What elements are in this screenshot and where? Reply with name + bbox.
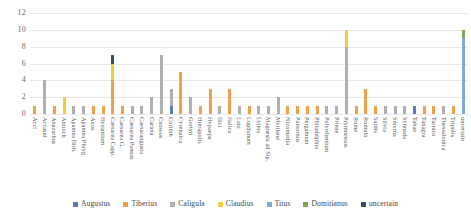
bar-segment-caligula[interactable] — [335, 106, 338, 114]
bar-segment-caligula[interactable] — [384, 106, 387, 114]
stacked-bar[interactable] — [325, 106, 328, 114]
bar-column[interactable] — [332, 13, 342, 114]
bar-segment-caligula[interactable] — [345, 47, 348, 114]
bar-segment-tiberius[interactable] — [432, 106, 435, 114]
bar-column[interactable] — [69, 13, 79, 114]
bar-segment-caligula[interactable] — [442, 106, 445, 114]
bar-segment-tiberius[interactable] — [364, 89, 367, 114]
stacked-bar[interactable] — [248, 106, 251, 114]
bar-segment-caligula[interactable] — [267, 106, 270, 114]
stacked-bar[interactable] — [140, 106, 143, 114]
stacked-bar[interactable] — [238, 106, 241, 114]
bar-column[interactable] — [40, 13, 50, 114]
stacked-bar[interactable] — [131, 106, 134, 114]
stacked-bar[interactable] — [413, 106, 416, 114]
stacked-bar[interactable] — [286, 106, 289, 114]
bar-column[interactable] — [225, 13, 235, 114]
bar-segment-tiberius[interactable] — [423, 106, 426, 114]
bar-column[interactable] — [108, 13, 118, 114]
bar-segment-tiberius[interactable] — [248, 106, 251, 114]
bar-segment-titus[interactable] — [462, 38, 465, 114]
stacked-bar[interactable] — [209, 89, 212, 114]
stacked-bar[interactable] — [452, 106, 455, 114]
bar-segment-tiberius[interactable] — [179, 72, 182, 114]
stacked-bar[interactable] — [82, 106, 85, 114]
stacked-bar[interactable] — [316, 106, 319, 114]
bar-column[interactable] — [351, 13, 361, 114]
legend-item-augustus[interactable]: Augustus — [73, 200, 111, 208]
bar-segment-tiberius[interactable] — [121, 106, 124, 114]
stacked-bar[interactable] — [355, 106, 358, 114]
stacked-bar[interactable] — [384, 106, 387, 114]
bar-segment-caligula[interactable] — [150, 97, 153, 114]
stacked-bar[interactable] — [277, 97, 280, 114]
bar-column[interactable] — [234, 13, 244, 114]
bar-segment-tiberius[interactable] — [452, 106, 455, 114]
stacked-bar[interactable] — [199, 106, 202, 114]
stacked-bar[interactable] — [442, 106, 445, 114]
stacked-bar[interactable] — [121, 106, 124, 114]
bar-column[interactable] — [205, 13, 215, 114]
bar-segment-tiberius[interactable] — [53, 106, 56, 114]
stacked-bar[interactable] — [92, 106, 95, 114]
bar-column[interactable] — [88, 13, 98, 114]
bar-column[interactable] — [59, 13, 69, 114]
stacked-bar[interactable] — [228, 89, 231, 114]
bar-column[interactable] — [342, 13, 352, 114]
bar-column[interactable] — [390, 13, 400, 114]
bar-segment-caligula[interactable] — [403, 106, 406, 114]
stacked-bar[interactable] — [432, 106, 435, 114]
bar-segment-tiberius[interactable] — [102, 106, 105, 114]
bar-segment-caligula[interactable] — [325, 106, 328, 114]
stacked-bar[interactable] — [306, 106, 309, 114]
legend-item-claudius[interactable]: Claudius — [218, 200, 254, 208]
bar-column[interactable] — [283, 13, 293, 114]
bar-column[interactable] — [215, 13, 225, 114]
bar-segment-caligula[interactable] — [257, 106, 260, 114]
stacked-bar[interactable] — [102, 106, 105, 114]
bar-segment-caligula[interactable] — [43, 80, 46, 114]
stacked-bar[interactable] — [345, 30, 348, 114]
bar-column[interactable] — [30, 13, 40, 114]
bar-segment-caligula[interactable] — [160, 55, 163, 114]
bar-column[interactable] — [371, 13, 381, 114]
bar-column[interactable] — [79, 13, 89, 114]
legend-item-domitianus[interactable]: Domitianus — [303, 200, 347, 208]
stacked-bar[interactable] — [394, 106, 397, 114]
bar-segment-tiberius[interactable] — [92, 106, 95, 114]
stacked-bar[interactable] — [43, 80, 46, 114]
bar-column[interactable] — [157, 13, 167, 114]
stacked-bar[interactable] — [403, 106, 406, 114]
bar-column[interactable] — [176, 13, 186, 114]
bar-column[interactable] — [410, 13, 420, 114]
stacked-bar[interactable] — [218, 106, 221, 114]
bar-segment-caligula[interactable] — [189, 97, 192, 114]
bar-segment-augustus[interactable] — [170, 106, 173, 114]
bar-column[interactable] — [118, 13, 128, 114]
bar-segment-domitianus[interactable] — [462, 30, 465, 38]
bar-column[interactable] — [361, 13, 371, 114]
bar-segment-tiberius[interactable] — [306, 106, 309, 114]
bar-column[interactable] — [380, 13, 390, 114]
bar-segment-tiberius[interactable] — [374, 106, 377, 114]
legend-item-titus[interactable]: Titus — [267, 200, 291, 208]
stacked-bar[interactable] — [364, 89, 367, 114]
bar-column[interactable] — [439, 13, 449, 114]
bar-column[interactable] — [254, 13, 264, 114]
bar-column[interactable] — [186, 13, 196, 114]
bar-segment-caligula[interactable] — [394, 106, 397, 114]
stacked-bar[interactable] — [170, 89, 173, 114]
stacked-bar[interactable] — [423, 106, 426, 114]
bar-column[interactable] — [449, 13, 459, 114]
bar-segment-caligula[interactable] — [72, 106, 75, 114]
bar-segment-claudius[interactable] — [345, 30, 348, 47]
bar-segment-tiberius[interactable] — [111, 80, 114, 114]
bar-segment-caligula[interactable] — [277, 97, 280, 114]
stacked-bar[interactable] — [257, 106, 260, 114]
stacked-bar[interactable] — [296, 106, 299, 114]
bar-column[interactable] — [49, 13, 59, 114]
bar-column[interactable] — [264, 13, 274, 114]
stacked-bar[interactable] — [63, 97, 66, 114]
bar-segment-caligula[interactable] — [170, 89, 173, 106]
bar-column[interactable] — [127, 13, 137, 114]
